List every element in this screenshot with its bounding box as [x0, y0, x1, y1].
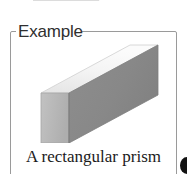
figure-caption: A rectangular prism: [10, 146, 177, 167]
top-cutoff-shape: [0, 0, 187, 10]
corner-glyph: [180, 157, 187, 174]
page-root: Example: [0, 0, 187, 174]
prism-front-face: [41, 93, 69, 143]
prism-svg: [34, 38, 164, 143]
top-cutoff-figure: [0, 0, 187, 10]
rectangular-prism-illustration: [34, 38, 164, 143]
